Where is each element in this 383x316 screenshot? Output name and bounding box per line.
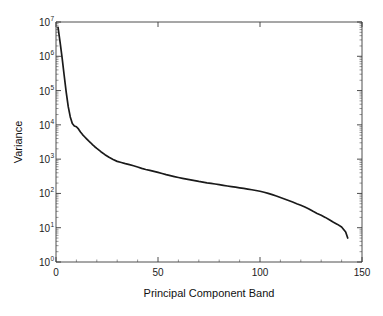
y-tick-label: 10 xyxy=(39,51,51,62)
y-tick-label: 10 xyxy=(39,223,51,234)
y-tick-label: 10 xyxy=(39,120,51,131)
y-tick-label-exponent: 1 xyxy=(51,221,55,228)
x-tick-label: 150 xyxy=(354,267,371,278)
y-tick-label-exponent: 2 xyxy=(51,186,55,193)
y-tick-label: 10 xyxy=(39,188,51,199)
y-tick-label-exponent: 6 xyxy=(51,49,55,56)
y-tick-label: 10 xyxy=(39,257,51,268)
x-tick-labels: 050100150 xyxy=(53,267,371,278)
y-axis-title: Variance xyxy=(12,121,24,164)
x-tick-label: 50 xyxy=(152,267,164,278)
y-tick-label: 10 xyxy=(39,154,51,165)
y-tick-label-exponent: 5 xyxy=(51,84,55,91)
plot-area xyxy=(56,22,362,262)
y-tick-label-exponent: 3 xyxy=(51,152,55,159)
y-tick-label: 10 xyxy=(39,86,51,97)
x-axis-title: Principal Component Band xyxy=(144,287,275,299)
scree-plot-figure: 100101102103104105106107 050100150 Princ… xyxy=(0,0,383,316)
y-tick-label-exponent: 7 xyxy=(51,15,55,22)
y-tick-label-exponent: 0 xyxy=(51,255,55,262)
y-tick-label: 10 xyxy=(39,17,51,28)
plot-background xyxy=(56,22,362,262)
y-tick-labels: 100101102103104105106107 xyxy=(39,15,55,268)
x-tick-label: 0 xyxy=(53,267,59,278)
y-tick-label-exponent: 4 xyxy=(51,118,55,125)
x-tick-label: 100 xyxy=(252,267,269,278)
